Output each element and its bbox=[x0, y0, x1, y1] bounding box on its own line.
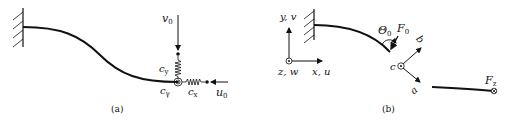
a-axis-arrow bbox=[403, 68, 420, 82]
Fz-into-page-icon bbox=[491, 88, 497, 94]
caption-a: (a) bbox=[111, 104, 123, 114]
diagram-canvas: v0 u0 cy cx cγ (a) y, v z, w x, u bbox=[0, 0, 507, 121]
label-a: a bbox=[408, 84, 420, 96]
label-F0: F0 bbox=[396, 22, 409, 36]
panel-b: y, v z, w x, u Θ0 F0 b c a bbox=[277, 9, 497, 114]
label-x-u: x, u bbox=[312, 66, 330, 77]
spring-cx bbox=[182, 79, 205, 85]
b-axis-arrow bbox=[403, 48, 421, 64]
fixed-wall-a bbox=[13, 8, 23, 47]
label-c: c bbox=[390, 61, 396, 72]
fixed-wall-b bbox=[304, 9, 314, 43]
label-y-v: y, v bbox=[279, 11, 297, 22]
label-Fz: Fz bbox=[484, 74, 497, 88]
label-theta0: Θ0 bbox=[378, 24, 392, 38]
coordinate-axes bbox=[286, 28, 322, 64]
v0-force-arrow bbox=[176, 15, 180, 56]
label-cy: cy bbox=[159, 63, 169, 76]
label-u0: u0 bbox=[216, 86, 228, 100]
beam-a bbox=[23, 27, 178, 82]
caption-b: (b) bbox=[382, 104, 395, 114]
label-v0: v0 bbox=[162, 12, 173, 26]
F0-force-arrow bbox=[391, 36, 398, 49]
label-cgamma: cγ bbox=[160, 85, 170, 98]
label-b: b bbox=[414, 33, 427, 45]
beam-b-segment-2 bbox=[432, 87, 493, 91]
spring-cy bbox=[175, 56, 181, 79]
label-z-w: z, w bbox=[277, 66, 299, 77]
panel-a: v0 u0 cy cx cγ (a) bbox=[13, 8, 228, 114]
label-cx: cx bbox=[188, 86, 198, 99]
